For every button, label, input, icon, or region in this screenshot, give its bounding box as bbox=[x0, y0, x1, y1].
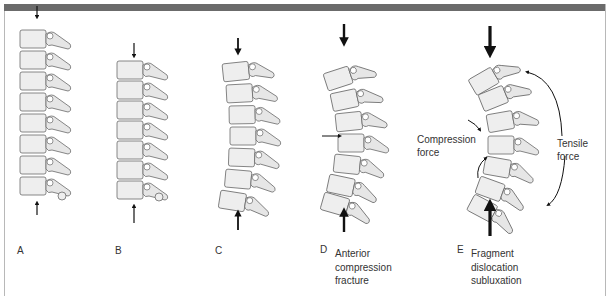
panel-label-a: A bbox=[17, 244, 24, 257]
panel-label-b: B bbox=[115, 244, 122, 257]
label-tensile-force: Tensile force bbox=[557, 137, 588, 163]
spine-d bbox=[320, 58, 389, 224]
spine-b bbox=[117, 61, 168, 201]
arrow-tensile-bottom bbox=[548, 156, 565, 205]
panel-label-d: D bbox=[320, 243, 327, 256]
caption-d: Anterior compression fracture bbox=[335, 247, 392, 288]
spine-c bbox=[218, 59, 281, 217]
spine-a bbox=[20, 30, 71, 200]
label-compression-force: Compression force bbox=[417, 133, 476, 159]
spine-e bbox=[466, 55, 539, 235]
arrow-compression-top bbox=[468, 120, 480, 130]
panel-label-c: C bbox=[215, 244, 222, 257]
arrow-tensile-top bbox=[527, 72, 562, 136]
panel-label-e: E bbox=[457, 243, 464, 256]
caption-e: Fragment dislocation subluxation bbox=[471, 247, 522, 288]
